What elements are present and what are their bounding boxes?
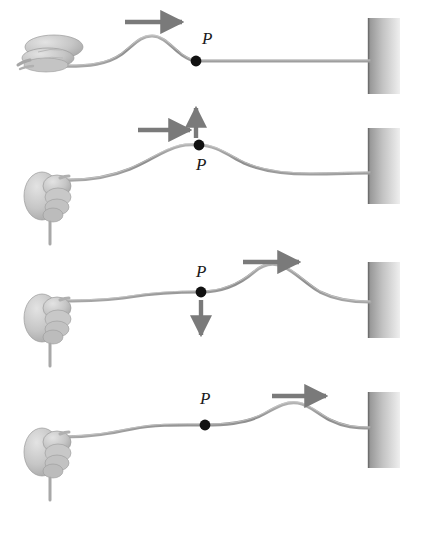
wall-panel-4 [368,392,400,468]
wall-panel-1 [368,18,400,94]
point-p-label-panel-2: P [195,155,206,174]
point-p-panel-1 [191,56,202,67]
point-p-panel-4 [200,420,211,431]
point-p-label-panel-1: P [201,29,212,48]
point-p-label-panel-3: P [195,262,206,281]
point-p-panel-3 [196,287,207,298]
wave-pulse-figure: P P [0,0,422,537]
wall-panel-3 [368,262,400,338]
wall-panel-2 [368,128,400,204]
figure-canvas: P P [0,0,422,537]
point-p-label-panel-4: P [199,389,210,408]
point-p-panel-2 [194,140,205,151]
